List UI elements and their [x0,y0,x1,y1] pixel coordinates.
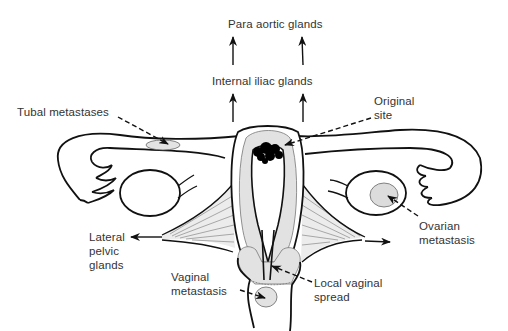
arrow-right-lateral [365,241,390,242]
label-local-vaginal-line1: Local vaginal [314,276,382,290]
label-internal-iliac-glands: Internal iliac glands [212,74,313,88]
label-original-site-line2: site [374,108,392,122]
label-para-aortic-glands: Para aortic glands [228,17,323,31]
arrow-to-para-aortic-right [302,37,303,65]
label-lateral-line1: Lateral [89,230,125,244]
label-ovarian-line2: metastasis [419,233,475,247]
label-lateral-line3: glands [89,258,124,272]
label-local-vaginal-line2: spread [314,290,350,304]
uterus-spread-diagram [0,0,508,331]
right-ovary [328,171,406,215]
label-ovarian-line1: Ovarian [419,219,460,233]
left-ovary [120,170,197,216]
label-vaginal-metastasis-line2: metastasis [171,284,227,298]
vaginal-metastasis [255,287,277,307]
label-tubal-metastases: Tubal metastases [17,105,109,119]
ovarian-metastasis [370,183,398,207]
arrow-tubal [118,117,168,144]
label-lateral-line2: pelvic [89,244,119,258]
label-vaginal-metastasis-line1: Vaginal [171,270,209,284]
label-original-site-line1: Original [374,94,414,108]
